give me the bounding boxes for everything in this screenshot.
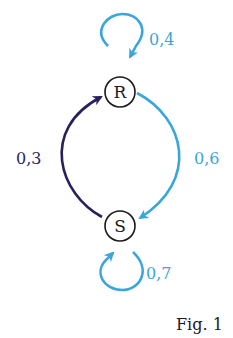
node-r-label: R <box>114 82 128 102</box>
edge-r-to-r <box>101 14 142 57</box>
edge-label-r-to-s: 0,6 <box>194 149 219 168</box>
node-s-label: S <box>114 216 126 236</box>
figure-caption: Fig. 1 <box>176 315 223 334</box>
edge-r-to-s <box>137 93 179 218</box>
edge-s-to-s <box>101 252 143 290</box>
edge-s-to-r <box>62 97 102 217</box>
markov-diagram: R S 0,4 0,6 0,3 0,7 Fig. 1 <box>0 0 233 338</box>
edge-label-s-to-r: 0,3 <box>16 149 41 168</box>
edge-label-r-to-r: 0,4 <box>149 30 174 49</box>
edge-label-s-to-s: 0,7 <box>146 264 171 283</box>
node-s: S <box>105 211 135 241</box>
node-r: R <box>105 77 135 107</box>
